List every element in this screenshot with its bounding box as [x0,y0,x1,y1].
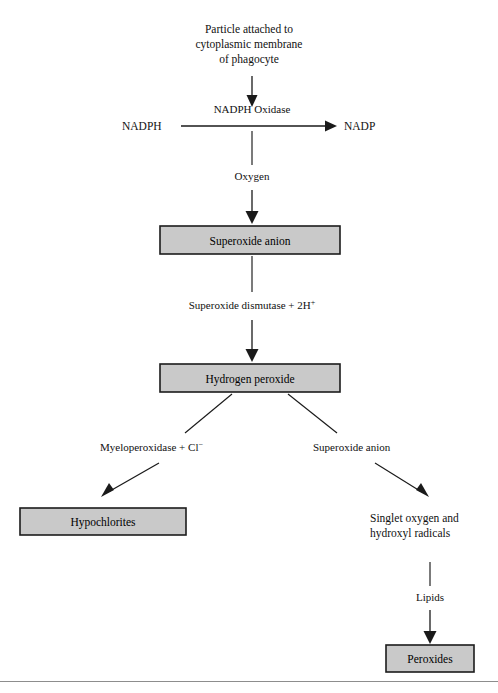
footer-divider [0,681,498,682]
arrow-lipids-to-peroxides-head [424,631,437,644]
superoxide-dismutase-label-superscript: + [311,298,316,307]
pathway-flowchart-canvas: Particle attached to cytoplasmic membran… [0,0,498,693]
myeloperoxidase-label-superscript: − [198,440,203,449]
arrow-nadph-to-nadp-head [325,121,337,132]
nadp-label: NADP [344,120,375,132]
start-node-line-2: cytoplasmic membrane [196,38,303,51]
branch-line-right [288,394,337,433]
start-node-line-3: of phagocyte [219,53,279,66]
oxygen-label: Oxygen [235,170,270,182]
myeloperoxidase-label-main: Myeloperoxidase + Cl [100,441,198,453]
start-node-line-1: Particle attached to [205,23,293,35]
myeloperoxidase-label: Myeloperoxidase + Cl− [100,440,203,453]
superoxide-dismutase-label-main: Superoxide dismutase + 2H [189,299,311,311]
singlet-oxygen-line-1: Singlet oxygen and [370,512,459,525]
superoxide-anion-branch-label: Superoxide anion [313,441,391,453]
lipids-label: Lipids [416,591,444,603]
superoxide-dismutase-label: Superoxide dismutase + 2H+ [189,298,316,311]
arrow-dismutase-to-peroxide-head [246,349,259,362]
pathway-diagram: Particle attached to cytoplasmic membran… [0,0,498,693]
nadph-label: NADPH [122,120,162,132]
branch-line-left [185,394,232,433]
arrow-to-hypochlorites-head [101,483,114,497]
hypochlorites-box-label: Hypochlorites [70,516,136,529]
hydrogen-peroxide-box-label: Hydrogen peroxide [205,373,294,386]
nadph-oxidase-label: NADPH Oxidase [214,103,291,115]
peroxides-box-label: Peroxides [407,653,453,665]
arrow-to-singlet-oxygen-line [375,463,420,491]
arrow-to-hypochlorites-line [110,463,159,491]
arrow-oxygen-to-superoxide-head [246,211,259,224]
superoxide-anion-box-label: Superoxide anion [210,235,291,248]
arrow-to-singlet-oxygen-head [416,483,429,497]
singlet-oxygen-line-2: hydroxyl radicals [370,527,451,540]
